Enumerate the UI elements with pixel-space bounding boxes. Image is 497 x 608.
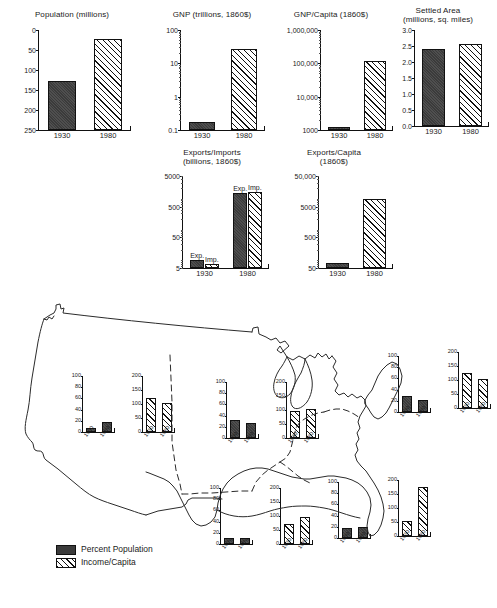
chart-title-gnp-capita: GNP/Capita (1860$) [268,10,394,19]
y-minor-tick [317,199,319,200]
y-minor-tick [181,262,183,263]
x-tick-label-1980: 1980 [367,132,384,140]
y-minor-tick [179,77,181,78]
bar-gnp-capita-1980 [364,61,386,130]
y-minor-tick [319,32,321,33]
y-minor-tick [319,67,321,68]
x-tick-label-1980: 1980 [366,270,383,278]
y-minor-tick [319,65,321,66]
y-minor-tick [179,40,181,41]
y-minor-tick [319,100,321,101]
y-minor-tick [179,71,181,72]
bar-population-1980 [94,39,123,130]
y-minor-tick [181,219,183,220]
bar-exports-capita-1930 [326,263,349,268]
axis-right-cap [268,264,269,268]
x-tick-label-1980: 1980 [100,132,117,140]
y-tick-mark [412,30,415,31]
y-minor-tick [179,73,181,74]
x-tick-label-1980: 1980 [239,270,256,278]
x-tick-label-1930: 1930 [331,132,348,140]
y-minor-tick [319,87,321,88]
y-minor-tick [181,188,183,189]
y-minor-tick [179,98,181,99]
y-minor-tick [319,120,321,121]
y-minor-tick [181,244,183,245]
x-tick-label-1930: 1930 [194,132,211,140]
bar-exports-capita-1980 [363,199,386,268]
bar-gnp-capita-1930 [328,127,350,130]
x-tick-label-1930: 1930 [425,128,442,136]
y-minor-tick [317,268,319,269]
y-tick-mark [412,62,415,63]
y-minor-tick [317,183,319,184]
y-minor-tick [317,188,319,189]
y-minor-tick [319,98,321,99]
y-minor-tick [317,179,319,180]
y-tick-mark [36,90,39,91]
y-minor-tick [319,53,321,54]
y-minor-tick [319,110,321,111]
chart-title-exports-imports: Exports/Imports (billions, 1860$) [152,148,272,166]
y-minor-tick [317,219,319,220]
y-tick-mark [412,126,415,127]
plot-area-exports-capita: 50,00050005005019301980 [318,176,393,269]
x-tick-label-1930: 1930 [54,132,71,140]
us-border-path [41,303,364,560]
legend-item-income-capita: Income/Capita [56,556,153,569]
y-minor-tick [319,43,321,44]
y-minor-tick [181,264,183,265]
bar-exports-imports-1930-Exp. [190,260,205,268]
y-minor-tick [319,68,321,69]
y-tick-mark [412,78,415,79]
y-minor-tick [319,114,321,115]
axis-right-cap [392,264,393,268]
y-minor-tick [319,77,321,78]
plot-area-population: 05010015020025019301980 [38,30,131,131]
y-minor-tick [181,250,183,251]
y-minor-tick [317,207,319,208]
y-minor-tick [319,37,321,38]
y-minor-tick [179,47,181,48]
bar-exports-imports-1980-Imp. [248,192,263,268]
x-tick-label-1930: 1930 [196,270,213,278]
y-tick-label: 100,000 [293,60,321,67]
y-minor-tick [181,179,183,180]
y-minor-tick [181,260,183,261]
bar-settled-area-1930 [422,49,445,126]
y-minor-tick [179,102,181,103]
y-minor-tick [319,73,321,74]
y-minor-tick [181,237,183,238]
y-tick-label: 1,000,000 [287,27,321,34]
y-minor-tick [181,207,183,208]
chart-title-gnp: GNP (trillions, 1860$) [152,10,272,19]
y-minor-tick [319,107,321,108]
y-minor-tick [317,260,319,261]
y-minor-tick [319,102,321,103]
axis-right-cap [264,126,265,130]
y-minor-tick [181,200,183,201]
y-minor-tick [317,210,319,211]
y-minor-tick [179,107,181,108]
y-minor-tick [181,176,183,177]
x-tick-label-1980: 1980 [236,132,253,140]
us-map-shape [25,304,402,536]
bar-series-label: Exp. [233,185,247,192]
y-minor-tick [317,250,319,251]
bar-series-label: Imp. [248,184,262,191]
y-minor-tick [179,53,181,54]
y-minor-tick [179,100,181,101]
y-minor-tick [179,37,181,38]
y-tick-mark [36,130,39,131]
bar-population-1930 [48,81,77,130]
y-minor-tick [317,266,319,267]
y-minor-tick [319,71,321,72]
y-minor-tick [181,240,183,241]
plot-area-exports-imports: 5000500505Exp.Imp.Exp.Imp.19301980 [182,176,269,269]
y-minor-tick [319,40,321,41]
legend-swatch-dark-icon [56,545,76,555]
plot-area-gnp: 1001010.119301980 [180,30,265,131]
y-minor-tick [181,183,183,184]
legend-label-percent-population: Percent Population [81,543,153,556]
y-minor-tick [317,202,319,203]
